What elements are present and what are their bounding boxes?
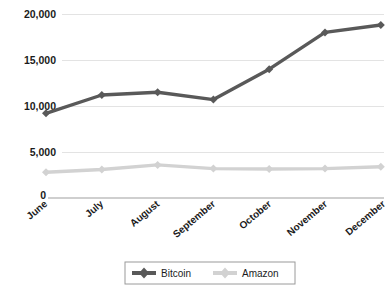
data-series-layer: [42, 21, 385, 176]
y-tick-label-5000: 5,000: [30, 146, 56, 158]
x-tick-label-august: August: [128, 198, 162, 229]
data-point[interactable]: [154, 88, 162, 96]
legend-label-amazon: Amazon: [242, 268, 279, 279]
data-point[interactable]: [42, 168, 50, 176]
line-chart: 20,000 15,000 10,000 5,000 0 June July A…: [0, 0, 390, 294]
chart-legend: Bitcoin Amazon: [125, 262, 295, 284]
data-point[interactable]: [377, 163, 385, 171]
x-tick-label-december: December: [343, 198, 387, 238]
data-point[interactable]: [265, 165, 273, 173]
x-tick-label-june: June: [24, 198, 49, 222]
chart-canvas: 20,000 15,000 10,000 5,000 0 June July A…: [0, 0, 390, 294]
y-tick-label-15000: 15,000: [24, 54, 56, 66]
x-axis-tick-labels: June July August September October Novem…: [24, 198, 387, 240]
x-tick-label-september: September: [171, 198, 218, 240]
series-bitcoin: [42, 21, 385, 117]
data-point[interactable]: [98, 165, 106, 173]
data-point[interactable]: [209, 165, 217, 173]
data-point[interactable]: [98, 91, 106, 99]
data-point[interactable]: [377, 21, 385, 29]
series-amazon: [42, 161, 385, 176]
legend-label-bitcoin: Bitcoin: [161, 268, 191, 279]
data-point[interactable]: [154, 161, 162, 169]
y-tick-label-20000: 20,000: [24, 8, 56, 20]
x-tick-label-november: November: [285, 198, 330, 238]
data-point[interactable]: [321, 165, 329, 173]
x-tick-label-july: July: [83, 198, 106, 220]
x-tick-label-october: October: [237, 198, 274, 231]
